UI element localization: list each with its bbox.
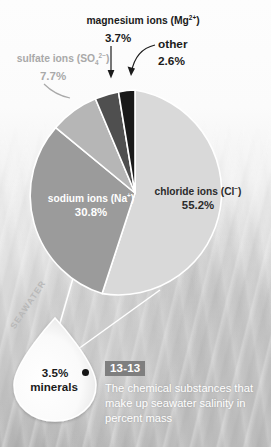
- droplet-value: 3.5%: [18, 366, 92, 379]
- arrow-magnesium-head: [108, 70, 115, 79]
- figure-number-badge: 13-13: [105, 361, 145, 376]
- label-sodium-name: sodium ions (Na+): [32, 192, 150, 205]
- arrow-other-line: [132, 45, 156, 72]
- figure-root: magnesium ions (Mg2+) 3.7% sulfate ions …: [0, 0, 271, 447]
- label-sulfate-name: sulfate ions (SO42−): [2, 52, 124, 67]
- sulfate-charge: 2−: [99, 52, 106, 59]
- label-other-name: other: [158, 38, 224, 51]
- arrow-other-head: [128, 67, 135, 77]
- label-sulfate-value: 7.7%: [18, 70, 88, 83]
- leader-line-right: [74, 290, 160, 352]
- dot-marker-icon: [82, 369, 89, 376]
- label-chloride-value: 55.2%: [140, 199, 256, 212]
- label-chloride-name: chloride ions (Cl−): [140, 185, 256, 198]
- label-other-value: 2.6%: [158, 55, 224, 68]
- figure-caption: The chemical substances that make up sea…: [105, 381, 267, 426]
- label-sodium-value: 30.8%: [32, 206, 150, 219]
- droplet-unit: minerals: [14, 380, 94, 393]
- sulfate-subscript: 4: [95, 59, 99, 66]
- callout-arrow-sulfate: [44, 84, 70, 98]
- label-magnesium-value: 3.7%: [78, 32, 158, 45]
- label-magnesium-name: magnesium ions (Mg2+): [58, 14, 228, 27]
